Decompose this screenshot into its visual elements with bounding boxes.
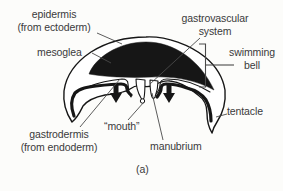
leader-manubrium xyxy=(152,93,163,140)
label-gastrodermis-line2: (from endoderm) xyxy=(11,141,107,154)
label-epidermis: epidermis (from ectoderm) xyxy=(6,8,102,33)
manubrium-wall-left xyxy=(136,79,145,100)
label-swimming-bell-line2: bell xyxy=(224,59,280,72)
label-gastrovascular-system: gastrovascular system xyxy=(168,12,262,37)
figure-caption: (a) xyxy=(136,163,149,176)
leader-mouth xyxy=(128,102,144,120)
label-epidermis-line1: epidermis xyxy=(6,8,102,21)
water-flow-arrow-right xyxy=(163,84,175,103)
label-gastrovascular-line2: system xyxy=(168,25,262,38)
label-tentacle: tentacle xyxy=(227,105,263,118)
label-epidermis-line2: (from ectoderm) xyxy=(6,21,102,34)
label-gastrodermis: gastrodermis (from endoderm) xyxy=(11,128,107,153)
medusa-body-plan-figure: epidermis (from ectoderm) mesoglea gastr… xyxy=(0,0,283,191)
label-mouth: “mouth” xyxy=(104,120,139,133)
label-gastrodermis-line1: gastrodermis xyxy=(11,128,107,141)
label-mesoglea: mesoglea xyxy=(37,46,82,59)
label-manubrium: manubrium xyxy=(150,140,202,153)
label-swimming-bell-line1: swimming xyxy=(224,46,280,59)
label-swimming-bell: swimming bell xyxy=(224,46,280,71)
label-gastrovascular-line1: gastrovascular xyxy=(168,12,262,25)
